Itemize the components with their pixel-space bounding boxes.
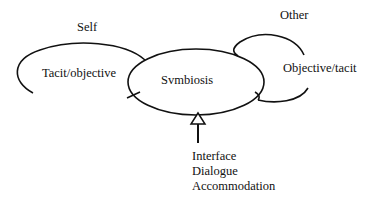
other-label: Objective/tacit (283, 61, 357, 75)
self-heading: Self (77, 20, 97, 34)
symbiosis-label: Svmbiosis (161, 73, 213, 87)
other-heading: Other (280, 8, 308, 22)
self-label: Tacit/objective (42, 66, 116, 80)
arrow-label-interface: Interface (192, 149, 236, 163)
other-arc (234, 35, 304, 56)
arrow-label-accommodation: Accommodation (192, 179, 275, 193)
diagram-canvas (0, 0, 374, 199)
other-arc-bottom (258, 88, 308, 102)
arrow-label-dialogue: Dialogue (192, 164, 238, 178)
